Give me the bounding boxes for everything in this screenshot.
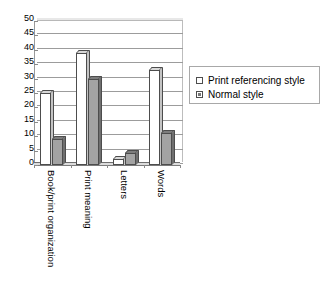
y-axis-tick-label: 30 [12,72,34,81]
y-axis-tick-label: 50 [12,14,34,23]
x-axis-tick-mark [107,165,108,168]
bar [88,79,99,165]
plot-back-band [37,18,183,21]
y-axis-tick-mark [34,21,38,22]
y-axis-tick-label: 10 [12,129,34,138]
x-axis-tick-mark [144,165,145,168]
legend-label: Normal style [208,89,264,100]
bar-side-face [172,130,175,165]
y-axis-tick-label: 0 [12,158,34,167]
y-axis-tick-mark [34,136,38,137]
bar [76,53,87,165]
y-axis-tick-mark [34,79,38,80]
y-axis-tick-label: 15 [12,115,34,124]
x-axis-category-label: Print meaning [83,170,93,229]
gridline [37,33,183,34]
y-axis-tick-labels: 50454035302520151050 [12,12,34,168]
bar [40,93,51,165]
y-axis-tick-mark [34,151,38,152]
y-axis-tick-label: 5 [12,144,34,153]
x-axis-tick-mark [34,165,35,168]
y-axis-tick-label: 40 [12,43,34,52]
y-axis-tick-mark [34,64,38,65]
bar [161,133,172,165]
y-axis-tick-mark [34,122,38,123]
y-axis-tick-label: 45 [12,28,34,37]
y-axis-tick-mark [34,50,38,51]
gridline [37,62,183,63]
y-axis-tick-label: 35 [12,57,34,66]
legend-entry: Normal style [196,87,264,101]
bar-side-face [99,76,102,165]
y-axis-tick-mark [34,35,38,36]
bar [52,139,63,165]
y-axis-tick-label: 20 [12,100,34,109]
legend-label: Print referencing style [208,75,305,86]
y-axis-tick-label: 25 [12,86,34,95]
legend-entry: Print referencing style [196,73,305,87]
x-axis-category-label: Letters [119,170,129,199]
bar [149,70,160,165]
x-axis-tick-mark [180,165,181,168]
gridline [37,48,183,49]
bar [125,153,136,165]
y-axis-tick-mark [34,107,38,108]
x-axis-category-label: Book/print organization [46,170,56,267]
x-axis-category-label: Words [156,170,166,197]
bar-side-face [63,136,66,165]
bar [113,159,124,165]
x-axis-tick-mark [71,165,72,168]
filled-square-swatch-icon [196,91,203,98]
y-axis-tick-mark [34,93,38,94]
open-square-swatch-icon [196,77,203,84]
chart-legend: Print referencing styleNormal style [189,66,320,104]
bar-chart: 50454035302520151050 Book/print organiza… [0,0,327,291]
